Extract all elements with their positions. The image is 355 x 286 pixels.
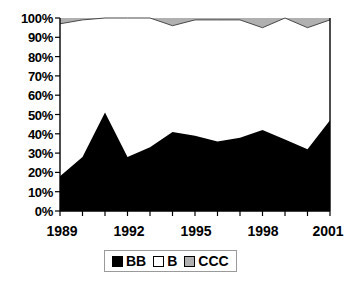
- legend-item-b: B: [153, 254, 177, 268]
- legend-label-bb: BB: [126, 254, 146, 268]
- y-axis-ticks: [55, 18, 60, 211]
- x-axis-tick-label: 2001: [312, 224, 343, 238]
- legend-label-ccc: CCC: [198, 254, 228, 268]
- chart-legend: BB B CCC: [104, 250, 237, 272]
- legend-swatch-b-icon: [153, 256, 164, 267]
- x-axis-tick-label: 1995: [180, 224, 211, 238]
- legend-label-b: B: [167, 254, 177, 268]
- plot-area: [0, 0, 355, 286]
- x-axis-tick-label: 1992: [113, 224, 144, 238]
- legend-swatch-ccc-icon: [184, 256, 195, 267]
- legend-item-ccc: CCC: [184, 254, 228, 268]
- area-chart: 100% 90% 80% 70% 60% 50% 40% 30% 20% 10%…: [0, 0, 355, 286]
- x-axis-tick-label: 1998: [247, 224, 278, 238]
- legend-swatch-bb-icon: [112, 256, 123, 267]
- x-axis-tick-label: 1989: [46, 224, 77, 238]
- legend-item-bb: BB: [112, 254, 146, 268]
- x-axis-ticks: [60, 211, 330, 216]
